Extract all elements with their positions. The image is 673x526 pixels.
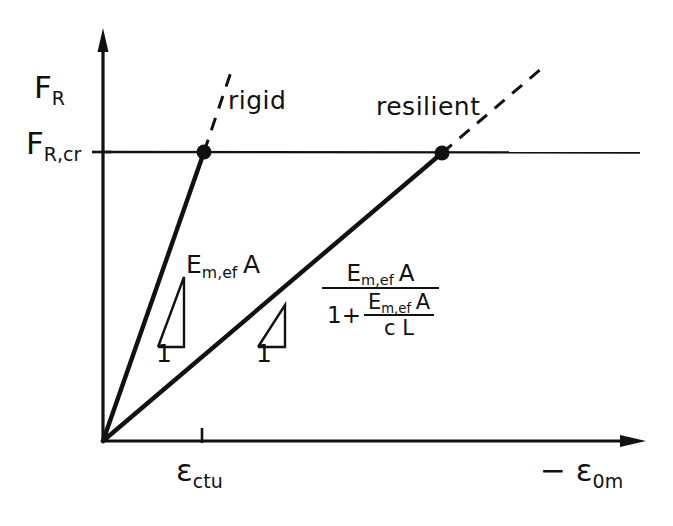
resilient-intersection-dot — [435, 146, 450, 161]
x-axis-arrow-icon — [620, 435, 646, 447]
rigid-slope-expression: Em,efA — [186, 252, 260, 277]
inner-num-symbol: E — [368, 290, 381, 314]
denominator-row: 1+ Em,efA c L — [327, 292, 434, 339]
x-axis-tick-label-subscript: ctu — [193, 470, 223, 492]
x-axis-tick-label-symbol: ε — [176, 452, 193, 488]
critical-force-label-symbol: F — [26, 125, 44, 161]
resilient-curve-label: resilient — [376, 94, 481, 119]
rigid-intersection-dot — [197, 145, 212, 160]
x-axis-label: − ε0m — [540, 455, 623, 486]
y-axis-label-symbol: F — [34, 69, 52, 105]
resilient-slope-run-label: 1 — [256, 341, 272, 366]
x-axis-tick-label: εctu — [176, 455, 223, 486]
y-axis-label: FR — [34, 72, 65, 103]
rigid-slope-run-label: 1 — [156, 341, 172, 366]
rigid-slope-triangle — [158, 277, 184, 347]
figure-canvas: FR FR,cr εctu − ε0m rigid resilient 1 1 … — [0, 0, 673, 526]
rigid-slope-tail: A — [243, 250, 260, 279]
inner-fraction-numerator: Em,efA — [364, 292, 434, 316]
inner-num-subscript: m,ef — [381, 301, 411, 316]
outer-num-symbol: E — [346, 260, 361, 286]
critical-force-label-subscript: R,cr — [44, 143, 82, 165]
outer-fraction-numerator: Em,efA — [322, 262, 439, 289]
rigid-slope-symbol: E — [186, 250, 202, 279]
y-axis-arrow-icon — [98, 28, 109, 52]
inner-fraction-denominator: c L — [364, 316, 434, 339]
x-axis-label-subscript: 0m — [593, 470, 624, 492]
one-plus-term: 1+ — [327, 304, 361, 327]
x-axis-label-symbol: − ε — [540, 452, 593, 488]
outer-fraction: Em,efA 1+ Em,efA c L — [322, 262, 439, 339]
critical-force-line — [103, 152, 640, 153]
inner-num-tail: A — [416, 290, 430, 314]
resilient-slope-formula: Em,efA 1+ Em,efA c L — [322, 262, 439, 339]
rigid-slope-subscript: m,ef — [202, 263, 238, 282]
outer-num-subscript: m,ef — [361, 272, 394, 288]
critical-force-label: FR,cr — [26, 128, 81, 159]
inner-fraction: Em,efA c L — [364, 292, 434, 339]
y-axis-label-subscript: R — [52, 87, 65, 109]
rigid-curve-label: rigid — [228, 88, 286, 113]
outer-num-tail: A — [399, 260, 415, 286]
outer-fraction-denominator: 1+ Em,efA c L — [322, 289, 439, 339]
